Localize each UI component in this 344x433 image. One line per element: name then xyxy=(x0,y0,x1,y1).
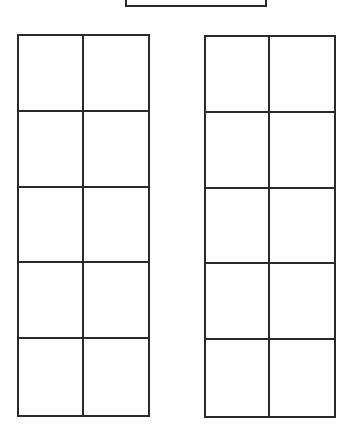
top-box xyxy=(125,0,267,7)
grid-cell xyxy=(206,113,270,189)
left-grid xyxy=(17,34,150,417)
grid-cell xyxy=(84,339,149,415)
grid-cell xyxy=(19,36,84,112)
grid-cell xyxy=(206,37,270,113)
grid-cell xyxy=(19,188,84,264)
grid-cell xyxy=(270,189,334,265)
grid-cell xyxy=(84,112,149,188)
grid-cell xyxy=(19,263,84,339)
grid-cell xyxy=(270,340,334,416)
grid-cell xyxy=(19,339,84,415)
grid-cell xyxy=(270,37,334,113)
grid-cell xyxy=(19,112,84,188)
grid-cell xyxy=(206,264,270,340)
grid-cell xyxy=(84,36,149,112)
grid-cell xyxy=(206,340,270,416)
grid-cell xyxy=(270,264,334,340)
grid-cell xyxy=(84,263,149,339)
grid-cell xyxy=(270,113,334,189)
grid-cell xyxy=(84,188,149,264)
grid-cell xyxy=(206,189,270,265)
right-grid xyxy=(204,35,336,418)
